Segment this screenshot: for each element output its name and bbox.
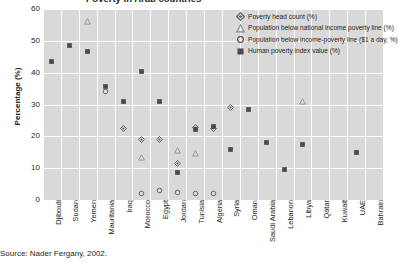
data-point-circle-open — [174, 189, 181, 196]
x-axis-tick-label: Egypt — [162, 200, 170, 219]
data-point-square-filled — [66, 42, 73, 49]
chart-title-clipped: Poverty in Arab countries — [0, 0, 390, 7]
legend-item-label: Human poverty index value (%) — [248, 47, 340, 55]
diamond-open-marker — [236, 12, 245, 21]
x-axis-tick-label: Algeria — [216, 200, 224, 223]
y-axis-tick-label: 20 — [18, 132, 40, 140]
x-axis-tick-label: Morocco — [144, 200, 152, 228]
x-axis-tick-label: Saudi Arabia — [269, 200, 277, 242]
data-point-square-filled — [227, 146, 234, 153]
x-axis-tick-label: Djibouti — [55, 200, 63, 225]
legend-item-label: Population below income-poverty line ($1… — [248, 36, 398, 44]
y-axis-tick-label: 40 — [18, 69, 40, 77]
gridline-vertical — [222, 9, 223, 200]
gridline-vertical — [168, 9, 169, 200]
x-axis-tick-label: Oman — [251, 200, 259, 220]
y-axis-tick-label: 50 — [18, 37, 40, 45]
gridline-vertical — [186, 9, 187, 200]
data-point-diamond-open — [174, 160, 181, 167]
data-point-square-filled — [174, 169, 181, 176]
square-filled-marker — [236, 47, 245, 56]
data-point-triangle-open — [84, 18, 91, 25]
gridline-horizontal — [43, 9, 383, 10]
data-point-square-filled — [299, 141, 306, 148]
x-axis-tick-label: Mauritania — [108, 200, 116, 235]
gridline-horizontal — [43, 136, 383, 137]
data-point-square-filled — [138, 68, 145, 75]
data-point-square-filled — [156, 98, 163, 105]
gridline-vertical — [204, 9, 205, 200]
data-point-circle-open — [192, 190, 199, 197]
x-axis-tick-label: UAE — [359, 200, 367, 215]
legend-item[interactable]: Human poverty index value (%) — [236, 46, 388, 58]
x-axis-tick-label: Tunisia — [198, 200, 206, 224]
legend-item[interactable]: Population below national income poverty… — [236, 23, 388, 35]
gridline-horizontal — [43, 73, 383, 74]
data-point-diamond-open — [120, 125, 127, 132]
data-point-square-filled — [210, 123, 217, 130]
x-axis-tick-label: Iraq — [126, 200, 134, 213]
y-axis-tick-label: 60 — [18, 5, 40, 13]
x-axis-tick-label: Bahrain — [377, 200, 385, 225]
y-axis-tick-label: 0 — [18, 196, 40, 204]
triangle-open-marker — [236, 24, 245, 33]
x-axis-tick-label: Qatar — [323, 200, 331, 218]
data-point-square-filled — [102, 83, 109, 90]
page-title: Poverty in Arab countries — [86, 0, 201, 4]
legend-item-label: Population below national income poverty… — [248, 24, 394, 32]
legend-item[interactable]: Poverty head count (%) — [236, 11, 388, 23]
data-point-square-filled — [281, 166, 288, 173]
legend-item-label: Poverty head count (%) — [248, 13, 317, 21]
circle-open-marker — [236, 35, 245, 44]
gridline-horizontal — [43, 105, 383, 106]
data-point-square-filled — [353, 149, 360, 156]
data-point-triangle-open — [299, 98, 306, 105]
data-point-circle-open — [138, 190, 145, 197]
gridline-vertical — [150, 9, 151, 200]
data-point-circle-open — [156, 187, 163, 194]
data-point-square-filled — [245, 106, 252, 113]
chart-legend: Poverty head count (%)Population below n… — [236, 11, 388, 57]
gridline-vertical — [132, 9, 133, 200]
y-axis-tick-label: 30 — [18, 101, 40, 109]
x-axis-tick-label: Jordan — [180, 200, 188, 223]
data-point-circle-open — [210, 190, 217, 197]
x-axis-tick-label: Syria — [233, 200, 241, 217]
data-point-square-filled — [84, 48, 91, 55]
data-point-diamond-open — [227, 104, 234, 111]
data-point-diamond-open — [138, 136, 145, 143]
x-axis-tick-label: Yemen — [90, 200, 98, 223]
gridline-vertical — [97, 9, 98, 200]
data-point-square-filled — [263, 139, 270, 146]
gridline-vertical — [61, 9, 62, 200]
gridline-vertical — [115, 9, 116, 200]
x-axis-tick-label: Lebanon — [287, 200, 295, 229]
gridline-horizontal — [43, 168, 383, 169]
x-axis-tick-label: Libya — [305, 200, 313, 218]
data-point-diamond-open — [156, 136, 163, 143]
gridline-vertical — [43, 9, 44, 200]
source-caption: Source: Nader Fergany, 2002. — [0, 249, 107, 258]
x-axis-tick-label: Sudan — [72, 200, 80, 221]
data-point-square-filled — [48, 58, 55, 65]
data-point-triangle-open — [138, 154, 145, 161]
y-axis-ticks: 6050403020100 — [16, 0, 40, 268]
data-point-square-filled — [192, 126, 199, 133]
data-point-triangle-open — [174, 147, 181, 154]
gridline-vertical — [79, 9, 80, 200]
x-axis-tick-label: Kuwait — [341, 200, 349, 222]
y-axis-tick-label: 10 — [18, 164, 40, 172]
legend-item[interactable]: Population below income-poverty line ($1… — [236, 34, 388, 46]
data-point-triangle-open — [192, 150, 199, 157]
data-point-square-filled — [120, 98, 127, 105]
